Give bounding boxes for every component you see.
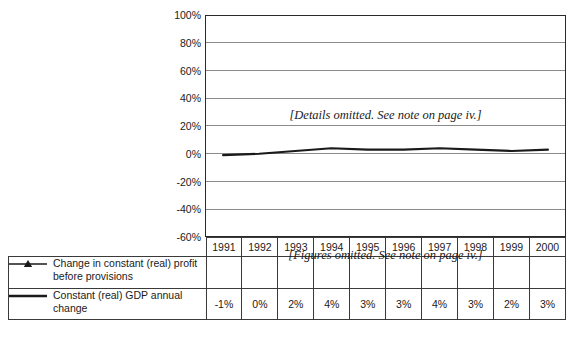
table-body: Change in constant (real) profit before …: [9, 257, 566, 320]
table-cell-1997: [422, 257, 458, 289]
table-cell-1991: -1%: [206, 289, 242, 320]
table-cell-1992: 0%: [242, 289, 278, 320]
table-header-year-1996: 1996: [386, 238, 422, 257]
series-line-gdp: [223, 148, 548, 155]
table-cell-1999: [494, 257, 530, 289]
table-header-year-1991: 1991: [206, 238, 242, 257]
table-header-year-1993: 1993: [278, 238, 314, 257]
legend-marker: [9, 290, 47, 302]
table-cell-1995: 3%: [350, 289, 386, 320]
legend-marker-plain-line-icon: [9, 290, 47, 302]
table-header-year-1992: 1992: [242, 238, 278, 257]
table-header-year-2000: 2000: [529, 238, 565, 257]
table-cell-2000: [529, 257, 565, 289]
series-layer: [205, 15, 566, 237]
table-cell-1998: [458, 257, 494, 289]
table-corner-blank: [9, 238, 207, 257]
data-table: 1991199219931994199519961997199819992000…: [8, 237, 566, 320]
table-header-row: 1991199219931994199519961997199819992000: [9, 238, 566, 257]
legend-label: Change in constant (real) profit before …: [53, 257, 206, 282]
y-axis-tick-60: 60%: [141, 66, 201, 77]
table-cell-1997: 4%: [422, 289, 458, 320]
chart-region: 100%80%60%40%20%0%-20%-40%-60% [Details …: [0, 0, 588, 250]
y-axis-tick-neg40: -40%: [141, 204, 201, 215]
table-header-year-1995: 1995: [350, 238, 386, 257]
table-cell-1994: 4%: [314, 289, 350, 320]
table-cell-1996: 3%: [386, 289, 422, 320]
legend-marker-line-triangle-icon: [9, 258, 47, 270]
table-cell-1991: [206, 257, 242, 289]
legend-cell: Constant (real) GDP annual change: [9, 289, 207, 320]
table-row: Change in constant (real) profit before …: [9, 257, 566, 289]
table-header-year-1998: 1998: [458, 238, 494, 257]
table-header-year-1994: 1994: [314, 238, 350, 257]
table-cell-1998: 3%: [458, 289, 494, 320]
legend-marker: [9, 258, 47, 270]
y-axis-tick-100: 100%: [141, 10, 201, 21]
table-cell-1993: 2%: [278, 289, 314, 320]
legend-label: Constant (real) GDP annual change: [53, 289, 206, 314]
y-axis-tick-neg20: -20%: [141, 177, 201, 188]
table-cell-1994: [314, 257, 350, 289]
table-cell-1995: [350, 257, 386, 289]
plot-omitted-note: [Details omitted. See note on page iv.]: [205, 108, 566, 123]
y-axis-tick-40: 40%: [141, 93, 201, 104]
table-header-year-1999: 1999: [494, 238, 530, 257]
table-cell-1999: 2%: [494, 289, 530, 320]
table-cell-1996: [386, 257, 422, 289]
table-header-year-1997: 1997: [422, 238, 458, 257]
table-cell-1992: [242, 257, 278, 289]
legend-cell: Change in constant (real) profit before …: [9, 257, 207, 289]
y-axis-tick-20: 20%: [141, 121, 201, 132]
table-row: Constant (real) GDP annual change-1%0%2%…: [9, 289, 566, 320]
table-cell-2000: 3%: [529, 289, 565, 320]
y-axis-tick-0: 0%: [141, 149, 201, 160]
y-axis-tick-80: 80%: [141, 38, 201, 49]
table-cell-1993: [278, 257, 314, 289]
